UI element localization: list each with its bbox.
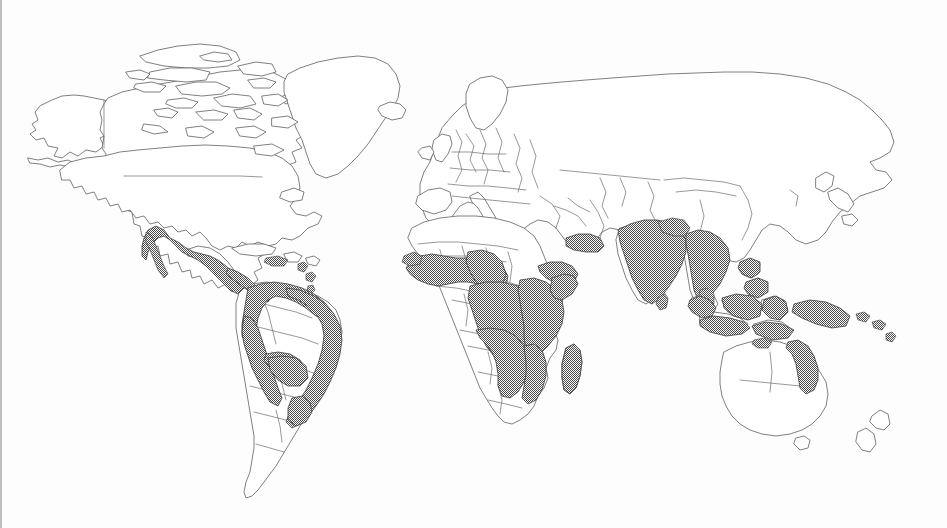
region-solomon-islands-1 <box>856 312 870 322</box>
land-new-zealand <box>870 410 890 430</box>
land-new-zealand-south <box>856 428 876 452</box>
region-java <box>700 316 750 336</box>
region-philippines-mindanao <box>744 278 768 298</box>
region-vanuatu <box>886 332 896 342</box>
region-lesser-antilles-1 <box>298 262 308 272</box>
scan-edge-artifact <box>0 0 2 528</box>
region-sulawesi <box>762 296 788 320</box>
region-papua-new-guinea <box>792 300 850 328</box>
world-map-svg <box>0 0 947 528</box>
world-map-figure <box>0 0 947 528</box>
region-madagascar <box>562 344 582 394</box>
region-lesser-antilles-2 <box>306 272 316 282</box>
land-tasmania <box>794 436 810 450</box>
region-somalia <box>550 274 578 300</box>
region-solomon-islands-2 <box>872 320 886 330</box>
land-greenland <box>284 56 400 178</box>
region-hispaniola <box>264 256 288 266</box>
region-lesser-sunda <box>752 322 794 340</box>
region-brazil-south-coast <box>288 396 312 426</box>
region-mozambique <box>522 344 546 404</box>
